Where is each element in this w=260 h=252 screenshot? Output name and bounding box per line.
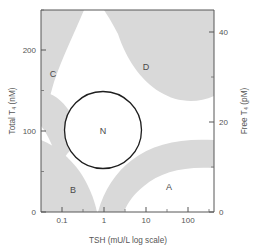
thyroid-function-chart: 0 100 200 0 20 40 0.1 1 10 100: [0, 0, 260, 252]
region-label-n: N: [100, 126, 107, 136]
region-label-d: D: [143, 62, 150, 72]
y2-tick-label-40: 40: [219, 28, 228, 37]
y-tick-label-100: 100: [23, 127, 37, 136]
x-axis-title: TSH (mU/L log scale): [89, 236, 167, 245]
y-axis-title: Total T₄ (nM): [8, 87, 17, 134]
x-tick-label-100: 100: [181, 216, 195, 225]
region-label-b: B: [70, 185, 76, 195]
y-tick-label-200: 200: [23, 46, 37, 55]
x-tick-label-0p1: 0.1: [56, 216, 68, 225]
x-tick-label-10: 10: [142, 216, 151, 225]
y2-tick-label-0: 0: [219, 208, 224, 217]
region-label-c: C: [50, 69, 57, 79]
y-tick-label-0: 0: [32, 208, 37, 217]
y2-tick-label-20: 20: [219, 118, 228, 127]
x-tick-label-1: 1: [102, 216, 107, 225]
y2-axis-title: Free T₄ (pM): [240, 88, 249, 135]
region-d-shape: [104, 10, 214, 101]
region-label-a: A: [166, 182, 172, 192]
chart-svg: 0 100 200 0 20 40 0.1 1 10 100: [0, 0, 260, 252]
